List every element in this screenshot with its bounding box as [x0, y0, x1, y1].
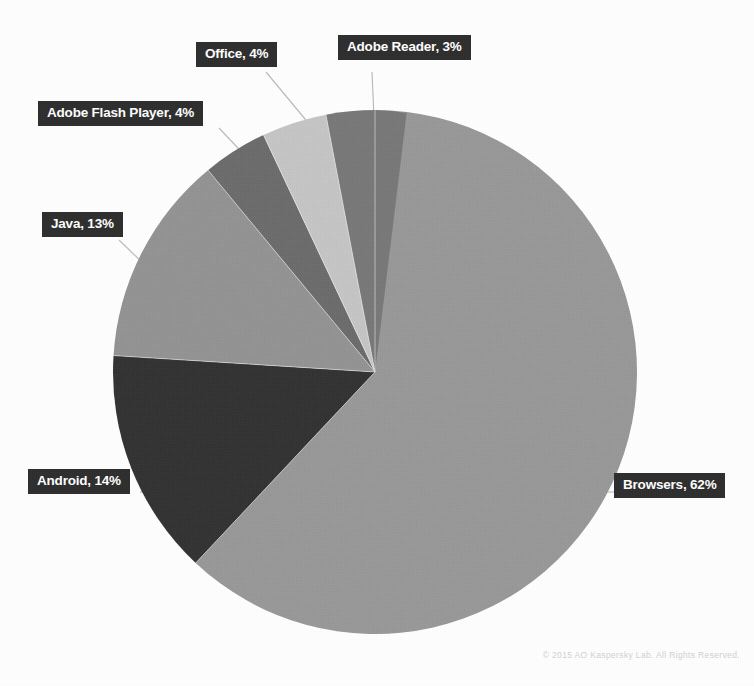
copyright-notice: © 2015 AO Kaspersky Lab. All Rights Rese… — [0, 650, 740, 660]
callout-label-java: Java, 13% — [42, 212, 123, 237]
leader-line-office — [266, 72, 310, 125]
pie-chart-figure: Office, 4% Adobe Reader, 3% Adobe Flash … — [0, 0, 754, 686]
callout-label-adobe-flash-player: Adobe Flash Player, 4% — [38, 101, 203, 126]
callout-label-browsers: Browsers, 62% — [614, 473, 725, 498]
callout-label-android: Android, 14% — [28, 469, 130, 494]
callout-label-office: Office, 4% — [196, 42, 277, 67]
callout-label-adobe-reader: Adobe Reader, 3% — [338, 35, 471, 60]
